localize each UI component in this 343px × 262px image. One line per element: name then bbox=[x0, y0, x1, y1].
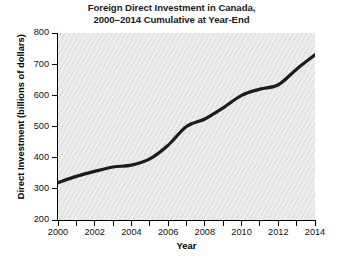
x-tick bbox=[186, 221, 187, 226]
chart-title: Foreign Direct Investment in Canada, 200… bbox=[0, 2, 343, 25]
x-tick bbox=[223, 221, 224, 226]
x-axis-title: Year bbox=[58, 241, 315, 250]
y-tick bbox=[52, 188, 57, 189]
x-tick bbox=[113, 221, 114, 226]
y-tick-label: 700 bbox=[9, 60, 49, 69]
y-tick bbox=[52, 95, 57, 96]
y-tick bbox=[52, 220, 57, 221]
x-tick bbox=[241, 221, 242, 226]
y-tick-label: 600 bbox=[9, 91, 49, 100]
y-tick-label: 800 bbox=[9, 28, 49, 37]
chart-title-line-2: 2000–2014 Cumulative at Year-End bbox=[0, 14, 343, 26]
x-tick-label: 2012 bbox=[258, 228, 298, 237]
x-tick-label: 2006 bbox=[148, 228, 188, 237]
x-tick-label: 2014 bbox=[295, 228, 335, 237]
x-tick-label: 2002 bbox=[75, 228, 115, 237]
x-tick bbox=[131, 221, 132, 226]
y-tick-label: 300 bbox=[9, 184, 49, 193]
x-tick bbox=[259, 221, 260, 226]
y-tick bbox=[52, 33, 57, 34]
x-tick bbox=[76, 221, 77, 226]
x-tick bbox=[296, 221, 297, 226]
x-tick-label: 2000 bbox=[38, 228, 78, 237]
y-tick bbox=[52, 64, 57, 65]
plot-area bbox=[58, 33, 315, 220]
data-line-series bbox=[58, 33, 315, 220]
y-tick-label: 400 bbox=[9, 153, 49, 162]
x-tick-label: 2010 bbox=[222, 228, 262, 237]
x-tick bbox=[168, 221, 169, 226]
x-tick bbox=[315, 221, 316, 226]
x-tick bbox=[204, 221, 205, 226]
x-tick-label: 2004 bbox=[111, 228, 151, 237]
x-tick bbox=[58, 221, 59, 226]
x-tick bbox=[278, 221, 279, 226]
y-tick bbox=[52, 157, 57, 158]
x-tick-label: 2008 bbox=[185, 228, 225, 237]
y-tick-label: 200 bbox=[9, 215, 49, 224]
x-tick bbox=[94, 221, 95, 226]
y-axis-line bbox=[57, 33, 58, 221]
x-tick bbox=[149, 221, 150, 226]
chart-figure: Foreign Direct Investment in Canada, 200… bbox=[0, 0, 343, 262]
chart-title-line-1: Foreign Direct Investment in Canada, bbox=[0, 2, 343, 14]
y-tick-label: 500 bbox=[9, 122, 49, 131]
y-tick bbox=[52, 126, 57, 127]
